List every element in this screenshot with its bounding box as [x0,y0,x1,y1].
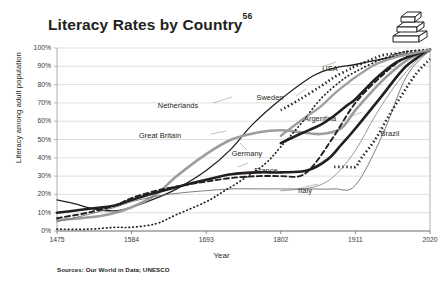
y-tick-label: 10% [25,209,51,216]
x-tick-label: 2020 [410,236,443,243]
chart-page: Literacy Rates by Country56 Literacy amo… [0,0,443,294]
y-tick-label: 80% [25,81,51,88]
series-line-argentina-grey [281,50,430,136]
y-tick-label: 40% [25,154,51,161]
chart-plot [0,0,443,294]
x-tick-label: 1693 [186,236,226,243]
series-label-sweden: Sweden [256,93,283,102]
y-tick-label: 50% [25,136,51,143]
series-label-usa: USA [322,64,337,73]
y-tick-label: 70% [25,99,51,106]
y-tick-label: 90% [25,62,51,69]
x-tick-label: 1584 [112,236,152,243]
series-label-germany: Germany [232,149,263,158]
series-label-netherlands: Netherlands [158,101,198,110]
series-label-brazil: Brazil [381,129,400,138]
series-label-italy: Italy [298,186,312,195]
series-line-germany [57,50,430,213]
x-tick-label: 1475 [37,236,77,243]
y-tick-label: 20% [25,190,51,197]
y-tick-label: 30% [25,172,51,179]
series-label-argentina: Argentina [304,114,336,123]
x-tick-label: 1802 [261,236,301,243]
series-line-netherlands [57,50,430,211]
y-tick-label: 0% [25,227,51,234]
gridlines [57,48,430,231]
series-label-france: France [254,166,277,175]
series-label-great-britain: Great Britain [139,131,181,140]
y-tick-label: 60% [25,117,51,124]
x-tick-label: 1911 [335,236,375,243]
y-tick-label: 100% [25,44,51,51]
